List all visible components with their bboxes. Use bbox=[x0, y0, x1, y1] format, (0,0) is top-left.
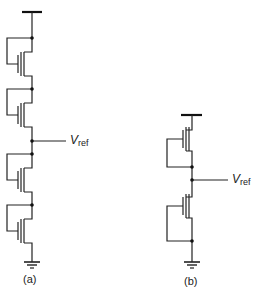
caption-a: (a) bbox=[23, 273, 36, 285]
nmos-transistor-a1 bbox=[7, 36, 34, 89]
nmos-transistor-a3 bbox=[7, 152, 34, 205]
vref-node-a bbox=[30, 139, 66, 154]
vref-label-a-main: V bbox=[70, 133, 78, 147]
circuit-a bbox=[7, 12, 66, 268]
vref-label-a: Vref bbox=[70, 133, 89, 148]
vref-node-b bbox=[190, 178, 228, 182]
caption-b: (b) bbox=[184, 275, 197, 287]
pmos-transistor-b1 bbox=[167, 115, 194, 180]
circuit-b bbox=[167, 115, 228, 268]
nmos-transistor-a2 bbox=[7, 87, 34, 141]
vref-label-b-main: V bbox=[232, 172, 240, 186]
vref-label-b: Vref bbox=[232, 172, 251, 187]
vref-label-a-sub: ref bbox=[78, 138, 89, 148]
vref-label-b-sub: ref bbox=[240, 177, 251, 187]
circuit-diagram bbox=[0, 0, 263, 289]
ground-symbol-a bbox=[24, 262, 40, 268]
nmos-transistor-a4 bbox=[7, 203, 34, 262]
pmos-transistor-b2 bbox=[167, 180, 194, 262]
ground-symbol-b bbox=[184, 262, 200, 268]
